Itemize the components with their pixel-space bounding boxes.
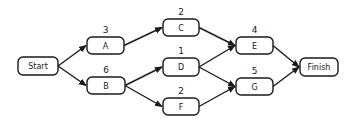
arrow-g-to-finish (273, 67, 299, 87)
node-d: D1 (163, 46, 199, 76)
arrow-start-to-b (58, 66, 86, 86)
arrow-e-to-finish (273, 46, 299, 68)
arrow-b-to-f (125, 86, 162, 107)
node-c: C2 (163, 7, 199, 36)
duration-label: 3 (103, 25, 109, 35)
arrow-f-to-g (199, 87, 235, 107)
arrow-d-to-g (199, 67, 235, 87)
arrow-d-to-e (199, 46, 235, 68)
arrow-c-to-e (199, 28, 235, 46)
duration-label: 5 (252, 66, 258, 76)
node-finish: Finish (300, 58, 338, 76)
duration-label: 4 (252, 25, 258, 35)
node-label: D (178, 63, 184, 72)
duration-label: 2 (178, 7, 184, 17)
node-label: C (178, 24, 184, 33)
node-b: B6 (87, 65, 125, 94)
arrow-a-to-c (124, 28, 162, 46)
duration-label: 1 (178, 46, 184, 56)
node-start: Start (18, 57, 58, 75)
duration-label: 6 (103, 65, 109, 75)
node-label: E (252, 42, 257, 51)
node-label: Start (28, 62, 48, 71)
node-label: A (103, 42, 109, 51)
duration-label: 2 (178, 86, 184, 96)
node-label: Finish (308, 63, 331, 72)
activity-network-diagram: StartA3B6C2D1F2E4G5Finish (0, 0, 355, 125)
arrow-start-to-a (58, 46, 86, 67)
node-label: F (179, 103, 184, 112)
node-f: F2 (163, 86, 199, 115)
node-e: E4 (236, 25, 273, 54)
node-g: G5 (236, 66, 273, 95)
node-a: A3 (87, 25, 124, 54)
node-label: B (103, 82, 109, 91)
node-label: G (251, 83, 257, 92)
arrow-b-to-d (125, 67, 162, 86)
